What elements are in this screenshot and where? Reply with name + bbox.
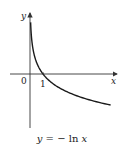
x-axis-label: x	[111, 76, 116, 86]
function-caption: y = − ln x	[0, 133, 124, 144]
curve-neg-ln-x	[31, 22, 111, 105]
function-plot: y x 0 1	[0, 0, 124, 149]
x-tick-label-1: 1	[40, 79, 46, 89]
caption-equals-neg-ln: = − ln	[42, 133, 81, 144]
caption-x: x	[82, 133, 88, 144]
origin-label: 0	[21, 76, 27, 86]
y-axis-label: y	[20, 11, 27, 21]
